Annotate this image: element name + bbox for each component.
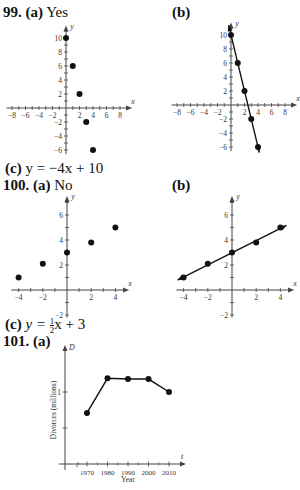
data-line xyxy=(87,378,169,413)
y-tick-label: −4 xyxy=(54,132,62,141)
y-axis-label: y xyxy=(70,192,75,201)
y-tick-label: −2 xyxy=(54,118,62,127)
data-point xyxy=(255,144,261,150)
y-tick-label: 6 xyxy=(58,62,62,71)
x-tick-label: 8 xyxy=(118,111,122,120)
x-axis-label: x xyxy=(295,94,300,103)
data-point xyxy=(63,35,69,41)
y-tick-label: 10 xyxy=(55,34,63,43)
data-point xyxy=(242,88,248,94)
x-tick-label: 6 xyxy=(105,111,109,120)
x-arrow-icon xyxy=(123,288,129,293)
data-point xyxy=(77,91,83,97)
x-tick-label: 4 xyxy=(256,108,260,117)
data-point xyxy=(40,261,46,267)
data-point xyxy=(253,240,259,246)
x-tick-label: 2 xyxy=(243,108,247,117)
data-point xyxy=(90,147,96,153)
x-tick-label: −4 xyxy=(35,111,43,120)
data-point xyxy=(205,261,211,267)
x-tick-label: 2 xyxy=(254,293,258,302)
x-tick-label: 8 xyxy=(283,108,287,117)
data-point xyxy=(277,225,283,231)
x-tick-label: −8 xyxy=(8,111,16,120)
data-point xyxy=(229,250,235,256)
x-tick-label: 1980 xyxy=(101,469,116,477)
x-tick-label: 4 xyxy=(91,111,95,120)
y-tick-label: 2 xyxy=(224,261,228,270)
y-axis-label: y xyxy=(69,22,74,31)
y-tick-label: 2 xyxy=(59,261,63,270)
x-tick-label: 6 xyxy=(270,108,274,117)
y-tick-label: 4 xyxy=(58,76,62,85)
y-axis-label: y xyxy=(235,192,240,201)
y-tick-label: 8 xyxy=(58,48,62,57)
x-axis-label: x xyxy=(292,279,297,288)
y-tick-label: 4 xyxy=(59,236,63,245)
data-point xyxy=(70,63,76,69)
x-tick-label: 2000 xyxy=(142,469,157,477)
chart-99b: xy−8−6−4−22468−6−4−2246810 xyxy=(172,19,300,153)
x-arrow-icon xyxy=(180,462,186,467)
data-point xyxy=(64,250,70,256)
data-point xyxy=(166,389,172,395)
data-point xyxy=(181,275,187,281)
y-tick-label: 4 xyxy=(223,73,227,82)
y-arrow-icon xyxy=(63,345,68,351)
x-tick-label: −2 xyxy=(39,293,47,302)
data-point xyxy=(16,275,22,281)
x-axis-var: t xyxy=(181,452,184,461)
data-point xyxy=(235,60,241,66)
y-axis-label: y xyxy=(234,19,239,28)
x-axis-label: x xyxy=(130,97,135,106)
chart-100b: xy−4−224−2246 xyxy=(176,192,297,320)
data-point xyxy=(248,116,254,122)
y-tick-label: −2 xyxy=(220,311,228,320)
x-tick-label: 2 xyxy=(78,111,82,120)
data-point xyxy=(112,225,118,231)
x-tick-label: −4 xyxy=(200,108,208,117)
y-axis-label: Divorces (millions) xyxy=(49,380,58,439)
data-point xyxy=(228,32,234,38)
x-tick-label: −2 xyxy=(204,293,212,302)
x-tick-label: −4 xyxy=(180,293,188,302)
y-tick-label: 4 xyxy=(224,236,228,245)
y-tick-label: −6 xyxy=(219,143,227,152)
data-point xyxy=(88,240,94,246)
x-tick-label: 2010 xyxy=(162,469,177,477)
data-point xyxy=(125,376,131,382)
chart-99a: xy−8−6−4−22468−6−4−2246810 xyxy=(7,22,136,155)
x-arrow-icon xyxy=(288,288,294,293)
x-axis-label: Year xyxy=(121,475,135,484)
y-tick-label: 6 xyxy=(224,211,228,220)
data-point xyxy=(146,376,152,382)
y-axis-var: D xyxy=(68,343,75,352)
x-tick-label: −6 xyxy=(187,108,195,117)
y-tick-label: −4 xyxy=(219,129,227,138)
x-tick-label: 4 xyxy=(114,293,118,302)
y-tick-label: −2 xyxy=(55,311,63,320)
y-tick-label: 6 xyxy=(223,59,227,68)
x-axis-label: x xyxy=(127,279,132,288)
y-tick-label: −6 xyxy=(54,146,62,155)
y-tick-label: 2 xyxy=(223,87,227,96)
chart-101a: Dt⫽197019801990200020101YearDivorces (mi… xyxy=(49,343,186,484)
y-tick-label: −2 xyxy=(219,115,227,124)
y-tick-label: 6 xyxy=(59,211,63,220)
data-point xyxy=(84,410,90,416)
x-tick-label: −6 xyxy=(22,111,30,120)
y-arrow-icon xyxy=(65,196,70,202)
x-tick-label: −8 xyxy=(173,108,181,117)
data-point xyxy=(83,119,89,125)
data-point xyxy=(105,375,111,381)
x-tick-label: 1970 xyxy=(80,469,95,477)
x-tick-label: 2 xyxy=(89,293,93,302)
y-tick-label: 10 xyxy=(220,31,228,40)
x-tick-label: 4 xyxy=(279,293,283,302)
y-tick-label: 2 xyxy=(58,90,62,99)
y-arrow-icon xyxy=(230,196,235,202)
x-tick-label: −4 xyxy=(15,293,23,302)
y-tick-label: 8 xyxy=(223,45,227,54)
chart-100a: xy−4−224−2246 xyxy=(11,192,132,320)
figure-canvas: xy−8−6−4−22468−6−4−2246810xy−8−6−4−22468… xyxy=(0,0,300,490)
